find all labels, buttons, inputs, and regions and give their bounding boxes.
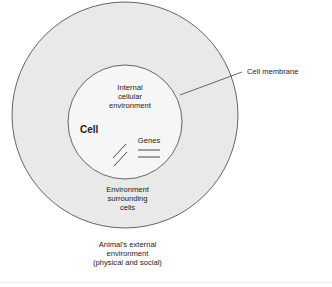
cell-label: Cell (80, 125, 110, 134)
label-line: environment (100, 101, 160, 110)
bottom-divider (0, 282, 332, 283)
external-environment-label: Animal's external environment (physical … (80, 240, 175, 267)
label-line: surrounding (95, 194, 160, 203)
label-line: Animal's external (80, 240, 175, 249)
cell-membrane-label: Cell membrane (247, 67, 327, 76)
surrounding-environment-label: Environment surrounding cells (95, 185, 160, 212)
label-line: (physical and social) (80, 258, 175, 267)
genes-label: Genes (133, 136, 165, 145)
internal-environment-label: Internal cellular environment (100, 83, 160, 110)
label-line: cellular (100, 92, 160, 101)
label-line: cells (95, 203, 160, 212)
label-line: Internal (100, 83, 160, 92)
label-line: environment (80, 249, 175, 258)
label-line: Environment (95, 185, 160, 194)
